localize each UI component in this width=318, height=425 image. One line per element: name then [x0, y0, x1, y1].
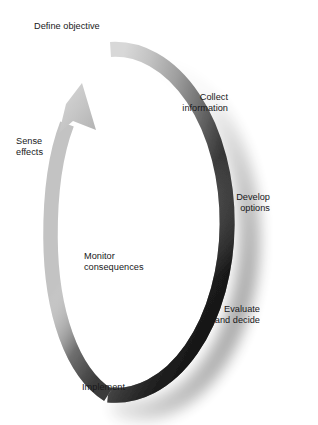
label-sense-effects: Sense effects	[16, 136, 76, 159]
decision-cycle-diagram: Define objective Collect information Dev…	[0, 0, 318, 425]
label-collect-information: Collect information	[152, 92, 228, 115]
label-monitor-consequences: Monitor consequences	[84, 251, 180, 274]
cycle-arrow-graphic	[0, 0, 318, 425]
arrowhead-icon	[59, 83, 96, 133]
label-evaluate-and-decide: Evaluate and decide	[184, 304, 260, 327]
label-implement: Implement	[82, 382, 125, 393]
label-define-objective: Define objective	[34, 21, 100, 32]
label-develop-options: Develop options	[198, 192, 270, 215]
